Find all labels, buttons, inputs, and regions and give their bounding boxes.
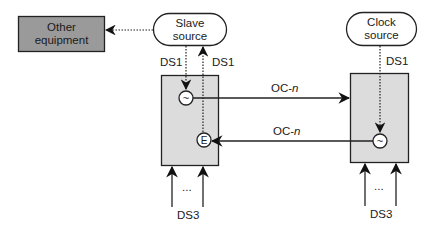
oc-bottom-suffix: n <box>294 125 300 137</box>
other-equipment-line1: Other <box>47 21 76 34</box>
clock-source-line2: source <box>364 29 399 42</box>
left-network-element <box>162 76 219 166</box>
oc-n-bottom-label: OC-n <box>273 126 301 138</box>
left-ellipsis: ... <box>182 182 192 194</box>
timing-diagram: Other equipment Slave source Clock sourc… <box>0 0 432 232</box>
right-ellipsis: ... <box>374 181 384 193</box>
oc-n-top-label: OC-n <box>271 83 299 95</box>
other-equipment-label: Other equipment <box>18 16 105 52</box>
slave-source-line2: source <box>173 30 208 43</box>
slave-ds1-down-label: DS1 <box>160 57 182 69</box>
oc-top-prefix: OC- <box>271 82 292 94</box>
right-clock-symbol: ~ <box>373 134 387 148</box>
right-ds3-label: DS3 <box>370 209 392 221</box>
clock-source-label: Clock source <box>346 12 417 46</box>
clock-ds1-label: DS1 <box>386 56 408 68</box>
oc-bottom-prefix: OC- <box>273 125 294 137</box>
slave-ds1-up-label: DS1 <box>212 57 234 69</box>
slave-source-line1: Slave <box>176 17 205 30</box>
slave-source-label: Slave source <box>153 13 227 46</box>
oc-top-suffix: n <box>292 82 298 94</box>
left-clock-symbol: ~ <box>179 91 193 105</box>
clock-source-line1: Clock <box>367 16 396 29</box>
left-extract-symbol: E <box>197 133 211 147</box>
other-equipment-line2: equipment <box>35 34 89 47</box>
left-ds3-label: DS3 <box>177 210 199 222</box>
